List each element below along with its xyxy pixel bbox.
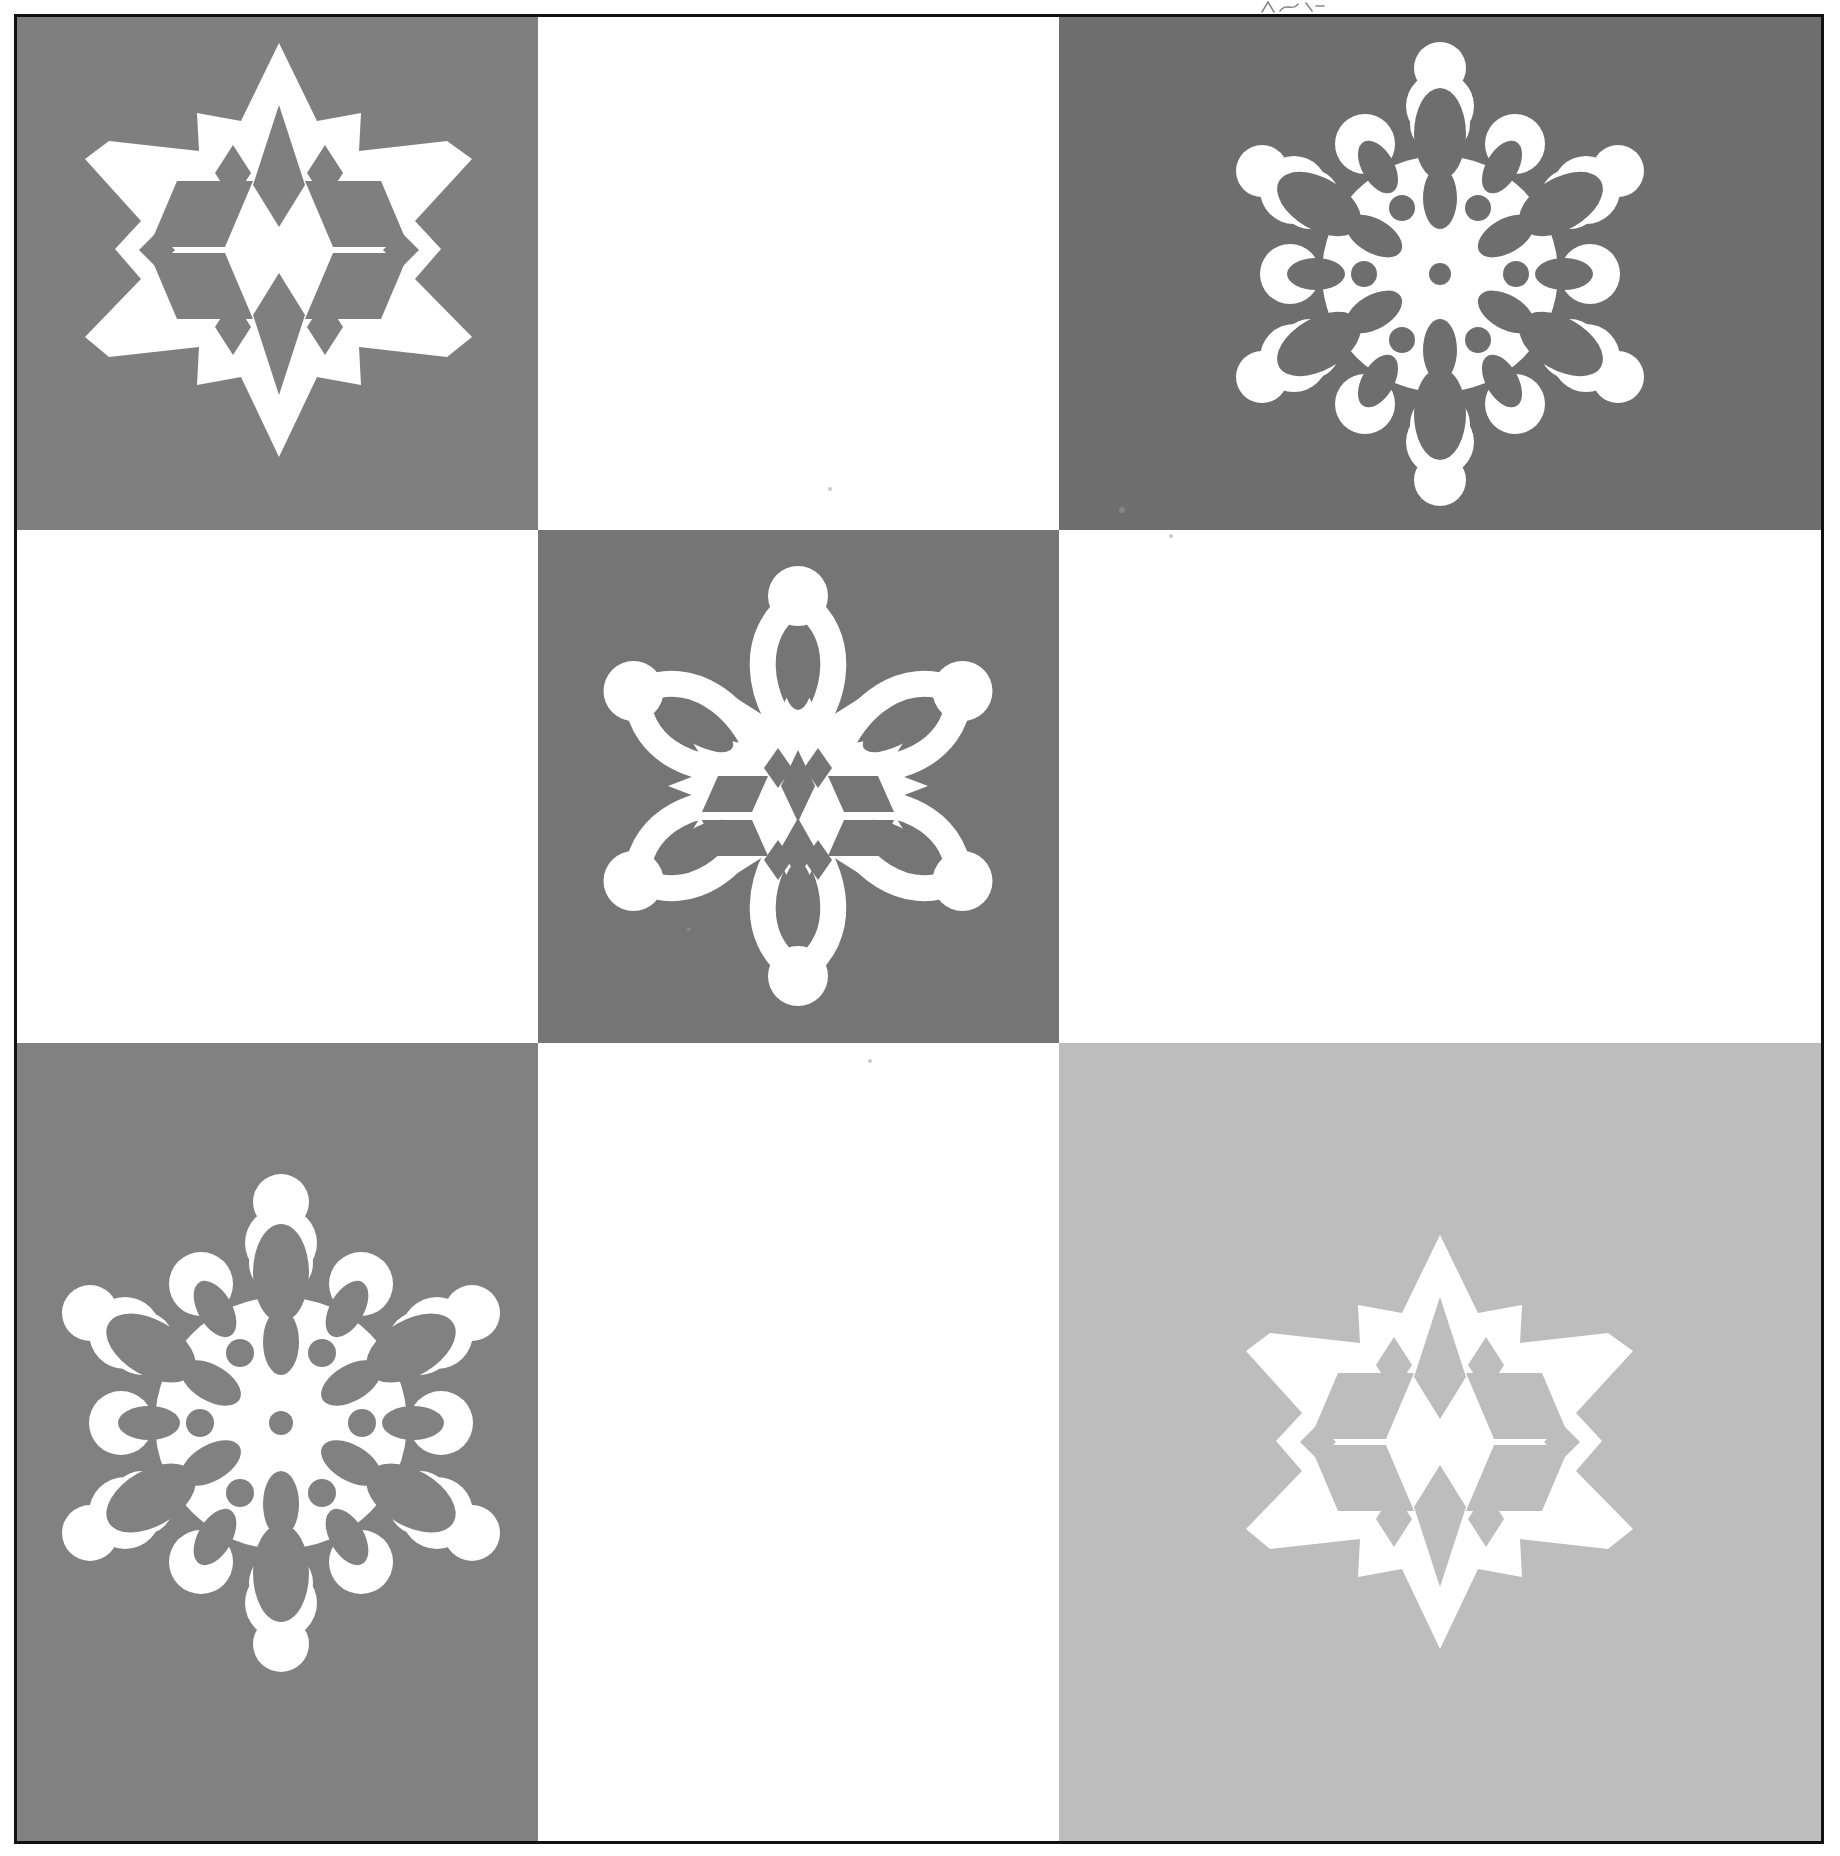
lace-petal-snowflake-icon	[62, 1174, 500, 1672]
grid-cell-middle-left	[17, 530, 538, 1043]
snowflake-grid	[17, 17, 1821, 1841]
scan-speck	[828, 487, 832, 491]
grid-cell-bottom-right	[1059, 1043, 1821, 1841]
pencil-mark-icon	[1258, 0, 1328, 14]
grid-cell-bottom-center	[538, 1043, 1059, 1841]
paper-sheet	[14, 14, 1824, 1844]
scan-speck	[868, 1059, 872, 1063]
scan-speck	[1119, 507, 1125, 513]
scan-speck	[1169, 534, 1173, 538]
loop-arm-snowflake-icon	[604, 566, 993, 1006]
scanned-page	[0, 0, 1840, 1856]
star-diamond-snowflake-icon	[1246, 1235, 1633, 1649]
grid-cell-middle-right	[1059, 530, 1821, 1043]
grid-cell-middle-center	[538, 530, 1059, 1043]
grid-cell-top-center	[538, 17, 1059, 530]
grid-cell-top-right	[1059, 17, 1821, 530]
grid-cell-top-left	[17, 17, 538, 530]
star-diamond-snowflake-icon	[85, 43, 472, 457]
lace-petal-snowflake-icon	[1236, 42, 1644, 506]
grid-cell-bottom-left	[17, 1043, 538, 1841]
scan-speck	[686, 928, 691, 931]
